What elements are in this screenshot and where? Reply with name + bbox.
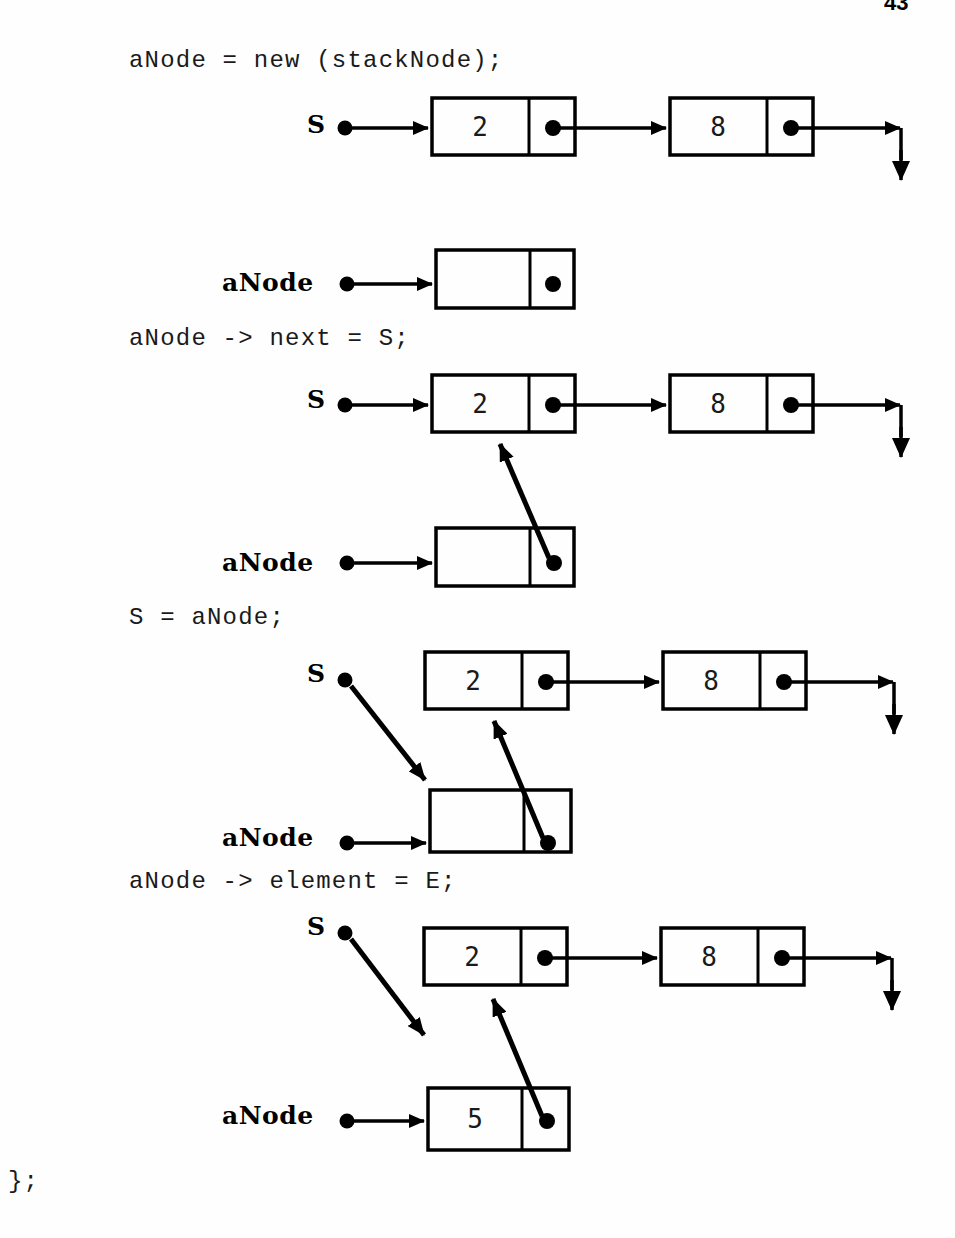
node-value-text: 2 [472, 389, 488, 419]
anode-pointer-dot-row1 [340, 277, 355, 292]
page-number: 43 [884, 0, 908, 16]
node-value-text: 5 [467, 1104, 483, 1134]
code-line-s-equals-anode: S = aNode; [129, 604, 285, 631]
anode-pointer-dot-row2 [340, 556, 355, 571]
anode-box-row1 [436, 250, 574, 308]
next-pointer-dot [540, 835, 556, 851]
anode-pointer-dot-row4 [340, 1114, 355, 1129]
node-value-text: 8 [701, 942, 717, 972]
diagram-step-4: 2 8 5 [338, 926, 893, 1151]
next-pointer-dot [539, 1113, 555, 1129]
pointer-label-anode-row4: aNode [222, 1101, 314, 1130]
anode-next-to-node2-arrow-row2 [500, 444, 549, 558]
diagram-step-1: 2 8 [338, 98, 902, 180]
s-pointer-dot-row1 [338, 121, 353, 136]
next-pointer-dot [537, 950, 553, 966]
pointer-label-anode-row2: aNode [222, 548, 314, 577]
diagram-step-2: 2 8 [338, 375, 902, 586]
node-value-text: 2 [465, 666, 481, 696]
next-pointer-dot [774, 950, 790, 966]
next-pointer-dot [783, 120, 799, 136]
s-pointer-dot-row2 [338, 398, 353, 413]
next-pointer-dot [545, 397, 561, 413]
list-node-8-row2: 8 [670, 375, 813, 432]
s-pointer-dot-row4 [338, 926, 353, 941]
pointer-label-s-row1: S [307, 110, 326, 139]
node-value-text: 8 [703, 666, 719, 696]
list-node-2-row3: 2 [425, 652, 568, 709]
pointer-label-s-row3: S [307, 659, 326, 688]
anode-box-row4: 5 [428, 1088, 569, 1150]
list-node-8-row3: 8 [663, 652, 806, 709]
anode-box-row2 [436, 528, 574, 586]
next-pointer-dot [783, 397, 799, 413]
list-node-8-row1: 8 [670, 98, 813, 155]
next-pointer-dot [776, 674, 792, 690]
s-pointer-dot-row3 [338, 673, 353, 688]
list-node-8-row4: 8 [661, 928, 804, 985]
list-node-2-row4: 2 [424, 928, 567, 985]
diagram-step-1-newnode [340, 250, 575, 308]
pointer-label-s-row2: S [307, 385, 326, 414]
anode-pointer-dot-row3 [340, 836, 355, 851]
code-line-new-stacknode: aNode = new (stackNode); [129, 47, 503, 74]
anode-next-to-node2-arrow-row4 [493, 999, 542, 1116]
node-value-text: 2 [464, 942, 480, 972]
code-line-anode-next: aNode -> next = S; [129, 325, 410, 352]
diagram-step-3: 2 8 [338, 652, 895, 852]
s-to-anode-arrow-row3 [351, 686, 425, 780]
page-canvas: 43 aNode = new (stackNode); aNode -> nex… [0, 0, 955, 1238]
s-to-anode-arrow-row4 [351, 939, 424, 1035]
anode-box-row3 [430, 790, 571, 852]
anode-next-to-node2-arrow-row3 [494, 721, 543, 838]
node-value-text: 2 [472, 112, 488, 142]
node-value-text: 8 [710, 112, 726, 142]
list-node-2-row2: 2 [432, 375, 575, 432]
next-pointer-dot [545, 120, 561, 136]
list-node-2-row1: 2 [432, 98, 575, 155]
pointer-label-anode-row3: aNode [222, 823, 314, 852]
next-pointer-dot [538, 674, 554, 690]
node-value-text: 8 [710, 389, 726, 419]
next-pointer-dot [546, 555, 562, 571]
code-line-close-brace: }; [8, 1168, 39, 1195]
pointer-label-anode-row1: aNode [222, 268, 314, 297]
code-line-anode-element: aNode -> element = E; [129, 868, 457, 895]
next-pointer-dot [545, 276, 561, 292]
pointer-label-s-row4: S [307, 912, 326, 941]
